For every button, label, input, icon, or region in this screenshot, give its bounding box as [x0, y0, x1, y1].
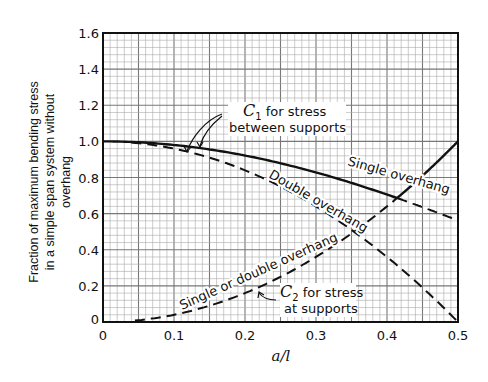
svg-text:0.2: 0.2	[235, 328, 256, 343]
svg-text:1.2: 1.2	[78, 98, 99, 113]
x-axis-label: a/l	[272, 347, 291, 365]
svg-text:1.4: 1.4	[78, 62, 99, 77]
svg-text:0.8: 0.8	[78, 171, 99, 186]
svg-text:between supports: between supports	[229, 120, 346, 135]
annotation-c2: C2 for stress at supports	[258, 282, 363, 317]
annotation-c1: C1 for stress between supports	[184, 101, 346, 152]
svg-text:0.4: 0.4	[377, 328, 398, 343]
y-axis-label: Fraction of maximum bending stress in a …	[27, 81, 73, 282]
svg-text:0.6: 0.6	[78, 207, 99, 222]
svg-text:Fraction of maximum bending st: Fraction of maximum bending stress	[27, 81, 41, 282]
svg-text:0.2: 0.2	[78, 279, 99, 294]
svg-text:at supports: at supports	[284, 301, 358, 316]
label-single-overhang: Single overhang	[346, 153, 452, 197]
svg-text:0: 0	[91, 312, 99, 327]
svg-text:1.0: 1.0	[78, 134, 99, 149]
label-double-overhang: Double overhang	[267, 167, 371, 236]
svg-text:Double overhang: Double overhang	[267, 167, 371, 236]
svg-text:0.1: 0.1	[164, 328, 185, 343]
svg-text:0.4: 0.4	[78, 243, 99, 258]
svg-text:in a simple span system withou: in a simple span system without	[43, 93, 57, 270]
y-tick-labels: 00.20.40.60.81.01.21.41.6	[78, 26, 99, 327]
chart: 00.10.20.30.40.5 00.20.40.60.81.01.21.41…	[0, 0, 488, 382]
svg-text:0.3: 0.3	[306, 328, 327, 343]
svg-text:overhang: overhang	[59, 156, 73, 208]
svg-text:0.5: 0.5	[448, 328, 469, 343]
x-tick-labels: 00.10.20.30.40.5	[99, 328, 468, 343]
svg-text:1.6: 1.6	[78, 26, 99, 41]
svg-text:Single overhang: Single overhang	[346, 153, 452, 197]
svg-text:0: 0	[99, 328, 107, 343]
